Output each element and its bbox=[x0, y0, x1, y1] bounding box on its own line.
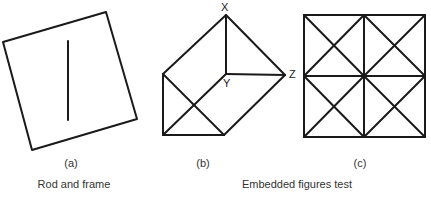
panel-label-a: (a) bbox=[64, 157, 77, 169]
vertex-label-z: Z bbox=[289, 68, 296, 80]
embedded-figure-b bbox=[163, 15, 285, 135]
panel-label-b: (b) bbox=[196, 157, 209, 169]
embedded-figure-c bbox=[304, 15, 425, 137]
tilted-frame bbox=[3, 12, 137, 150]
caption-rod-and-frame: Rod and frame bbox=[38, 178, 111, 190]
caption-embedded-figures: Embedded figures test bbox=[242, 178, 352, 190]
diagram-canvas bbox=[0, 0, 431, 204]
vertex-label-y: Y bbox=[223, 77, 230, 89]
rod-and-frame-figure bbox=[3, 12, 137, 150]
panel-label-c: (c) bbox=[354, 157, 367, 169]
vertex-label-x: X bbox=[221, 1, 228, 13]
